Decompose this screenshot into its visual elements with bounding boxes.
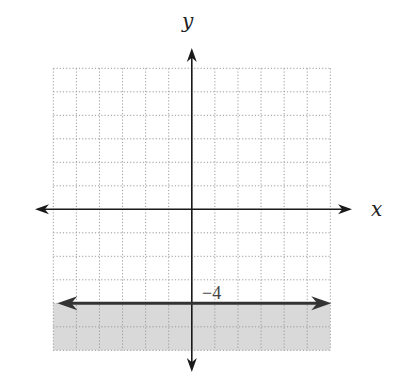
y-axis-label: y (181, 9, 194, 33)
coordinate-plane: x y −4 (0, 0, 398, 392)
boundary-value-label: −4 (202, 283, 221, 303)
x-axis-label: x (371, 197, 382, 221)
